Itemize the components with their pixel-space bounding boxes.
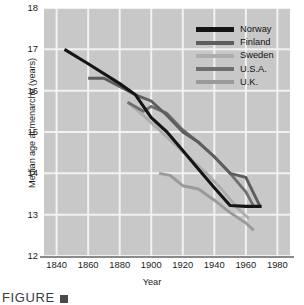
legend-item: Finland — [196, 37, 274, 48]
legend-item-label: Norway — [240, 24, 272, 35]
figure-caption-text: FIGURE — [2, 290, 55, 305]
legend-item: U.S.A. — [196, 64, 274, 75]
legend-color-swatch — [196, 27, 234, 31]
legend-item: Norway — [196, 24, 274, 35]
legend-item-label: Sweden — [240, 50, 274, 61]
series-line-sweden — [128, 102, 249, 219]
legend-item: U.K. — [196, 77, 274, 88]
y-tick-label: 14 — [16, 168, 38, 178]
figure-number-box-icon — [60, 295, 68, 303]
legend-color-swatch — [196, 80, 234, 84]
legend-item-label: Finland — [240, 37, 271, 48]
y-tick-label: 16 — [16, 86, 38, 96]
y-tick-label: 12 — [16, 251, 38, 261]
figure-caption: FIGURE — [2, 290, 68, 305]
legend-item: Sweden — [196, 50, 274, 61]
legend-item-label: U.K. — [240, 77, 258, 88]
y-axis-title: Median age at menarche (years) — [27, 28, 37, 218]
y-tick-label: 17 — [16, 44, 38, 54]
series-line-uk — [159, 173, 254, 230]
legend-color-swatch — [196, 41, 234, 45]
y-tick-label: 18 — [16, 3, 38, 13]
y-tick-label: 15 — [16, 127, 38, 137]
y-tick-label: 13 — [16, 210, 38, 220]
legend-color-swatch — [196, 54, 234, 58]
chart-legend: NorwayFinlandSwedenU.S.A.U.K. — [196, 24, 274, 88]
x-axis-title: Year — [0, 277, 304, 287]
legend-item-label: U.S.A. — [240, 64, 267, 75]
legend-color-swatch — [196, 67, 234, 71]
x-tick-label: 1980 — [257, 260, 297, 270]
x-axis-line — [40, 256, 294, 258]
